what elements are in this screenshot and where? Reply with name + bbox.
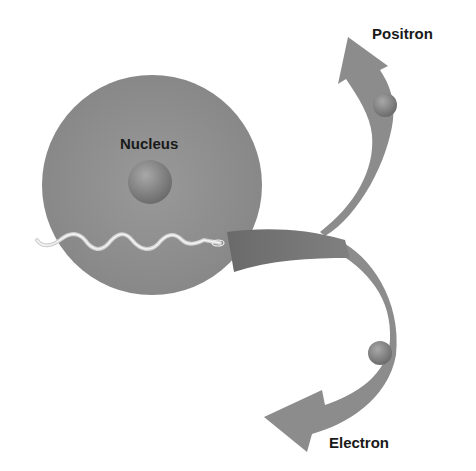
positron-arrow xyxy=(320,37,397,236)
core-particle xyxy=(128,160,172,204)
diagram-canvas xyxy=(0,0,476,471)
positron-particle xyxy=(373,93,397,117)
electron-arrow xyxy=(264,240,397,452)
positron-label: Positron xyxy=(372,25,433,42)
nucleus-label: Nucleus xyxy=(120,135,178,152)
incoming-arrow-band xyxy=(227,229,350,272)
electron-particle xyxy=(368,341,392,365)
electron-label: Electron xyxy=(329,434,389,451)
pair-production-diagram: Nucleus Positron Electron xyxy=(0,0,476,471)
